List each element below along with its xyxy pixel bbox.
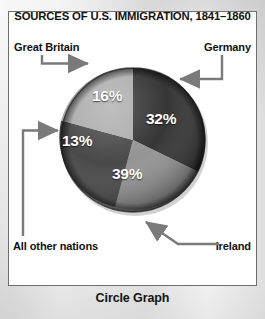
pie-value-ireland: 39%	[112, 165, 142, 183]
callout-label-germany: Germany	[204, 41, 251, 53]
figure-caption: Circle Graph	[0, 291, 265, 305]
figure-title: SOURCES OF U.S. IMMIGRATION, 1841–1860	[0, 10, 265, 22]
callout-label-great-britain: Great Britain	[14, 41, 79, 53]
callout-label-all-other-nations: All other nations	[13, 240, 98, 252]
pie-value-germany: 32%	[146, 110, 176, 128]
callout-label-ireland: Ireland	[216, 240, 251, 252]
pie-value-all-other-nations: 13%	[62, 132, 92, 150]
pie-value-great-britain: 16%	[92, 87, 122, 105]
